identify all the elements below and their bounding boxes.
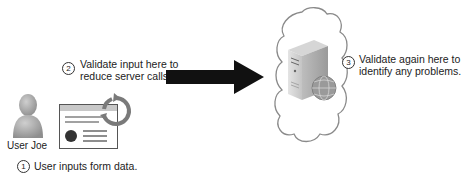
- right-arrow-icon: [166, 60, 266, 94]
- step-1-badge: 1: [17, 160, 30, 173]
- user-name-label: User Joe: [7, 140, 47, 151]
- step-3-text: Validate again here to identify any prob…: [359, 53, 461, 77]
- step-2-badge: 2: [62, 62, 75, 75]
- step-2-line-1: Validate input here to: [80, 58, 178, 70]
- server-icon: [284, 38, 346, 102]
- step-2-line-2: reduce server calls.: [80, 70, 178, 82]
- refresh-cycle-icon: [98, 93, 134, 129]
- globe-icon: [65, 130, 77, 142]
- step-3-badge: 3: [342, 56, 355, 69]
- step-3-line-2: identify any problems.: [359, 65, 461, 77]
- globe-icon: [312, 76, 336, 100]
- step-3-line-1: Validate again here to: [359, 53, 461, 65]
- step-1-text: User inputs form data.: [34, 160, 137, 172]
- step-2-text: Validate input here to reduce server cal…: [80, 58, 178, 82]
- user-icon: [11, 93, 45, 139]
